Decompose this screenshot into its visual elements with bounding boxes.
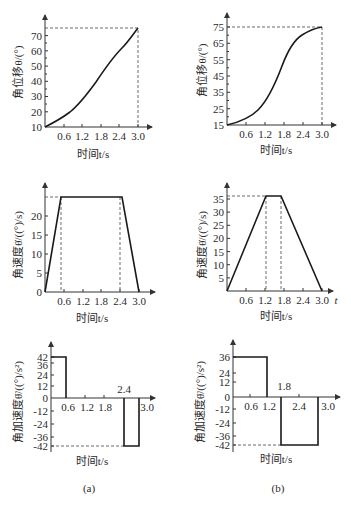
- x-tick-label: 3.0: [140, 401, 154, 413]
- y-axis-title: 角速度θ̇/((°)/s): [195, 211, 209, 279]
- x-tick-label: 1.2: [80, 401, 94, 413]
- x-tick-label: 2.4: [296, 294, 310, 306]
- x-axis-title: 时间t/s: [260, 144, 292, 156]
- y-tick-label: 40: [31, 75, 43, 87]
- y-tick-label: 60: [31, 45, 43, 57]
- displacement-curve: [45, 28, 138, 127]
- x-tick-label: 3.0: [315, 128, 329, 140]
- y-tick-label: 10: [31, 121, 43, 133]
- x-tick-label: 0.6: [57, 130, 71, 142]
- y-tick-label: 15: [213, 119, 225, 131]
- x-tick-label: 2.4: [296, 128, 310, 140]
- x-tick-label: 2.4: [117, 383, 131, 395]
- y-axis-title: 角加速度θ̈/((°)/s²): [11, 361, 25, 443]
- y-tick-label: 0: [225, 391, 231, 403]
- y-tick-label: 35: [213, 193, 225, 205]
- y-tick-label: 25: [213, 219, 225, 231]
- y-tick-label: 50: [31, 60, 43, 72]
- y-tick-label: -24: [33, 418, 48, 430]
- x-axis-title: 时间t/s: [76, 455, 108, 467]
- x-tick-label-1-8: 1.8: [277, 380, 291, 392]
- x-tick-label: 0.6: [244, 400, 258, 412]
- x-axis-title: 时间t/s: [260, 310, 292, 322]
- x-tick-label: 1.8: [277, 294, 291, 306]
- y-tick-label: 20: [213, 232, 225, 244]
- chart-b-displacement: 15 25 35 45 55 65 75 0.6 1.2 1.8 2.4 3.0…: [195, 13, 336, 156]
- x-tick-label: 3.0: [131, 130, 145, 142]
- y-axis-title: 角位移θ/(°): [195, 43, 209, 96]
- y-tick-label: -42: [33, 440, 48, 452]
- x-tick-label: 1.2: [75, 130, 89, 142]
- velocity-trapezoid: [45, 197, 139, 292]
- y-tick-label: 30: [31, 90, 43, 102]
- y-tick-label: 20: [31, 210, 43, 222]
- y-tick-label: 5: [219, 272, 225, 284]
- y-tick-label: 55: [213, 54, 225, 66]
- y-tick-label: 15: [213, 246, 225, 258]
- y-tick-label: 45: [213, 70, 225, 82]
- chart-a-displacement: 10 20 30 40 50 60 70 0.6 1.2 1.8 2.4 3.0…: [11, 15, 152, 160]
- acceleration-positive-pulse: [233, 357, 267, 397]
- y-tick-label: 75: [213, 21, 225, 33]
- y-tick-label: 5: [37, 267, 43, 279]
- y-tick-label: 12: [219, 376, 230, 388]
- y-tick-label: 0: [37, 286, 43, 298]
- x-tick-label: 2.4: [292, 400, 306, 412]
- displacement-curve: [227, 27, 322, 125]
- y-tick-label: 20: [31, 106, 43, 118]
- velocity-trapezoid: [227, 196, 322, 291]
- y-axis-title: 角速度θ̇/((°)/s): [11, 211, 25, 279]
- x-tick-label: 1.8: [94, 295, 108, 307]
- y-tick-label: 35: [213, 86, 225, 98]
- x-tick-label: 0.6: [57, 295, 71, 307]
- x-axis-title: 时间t/s: [260, 453, 292, 465]
- x-tick-label: 3.0: [321, 400, 335, 412]
- x-tick-label: 1.8: [94, 130, 108, 142]
- acceleration-negative-pulse: [124, 398, 139, 446]
- guide-dashed: [45, 28, 138, 127]
- y-tick-label: 12: [37, 380, 48, 392]
- x-tick-label: 1.2: [76, 295, 90, 307]
- chart-b-acceleration: 36 24 12 0 -12 -24 -36 -42 0.6 1.2 2.4 3…: [193, 340, 340, 495]
- x-axis-title: 时间t/s: [77, 148, 109, 160]
- y-tick-label: 30: [213, 206, 225, 218]
- y-tick-label: -12: [33, 405, 48, 417]
- x-tick-label: 1.8: [277, 128, 291, 140]
- chart-b-velocity: 5 10 15 20 25 30 35 0.6 1.2 1.8 2.4 3.0 …: [195, 183, 338, 322]
- x-tick-label: 1.2: [258, 128, 272, 140]
- x-tick-label: 0.6: [61, 401, 75, 413]
- y-tick-label: -12: [215, 403, 230, 415]
- y-axis-title: 角位移θ/(°): [11, 45, 25, 98]
- y-tick-label: -24: [215, 417, 230, 429]
- chart-a-acceleration: 42 36 24 12 0 -12 -24 -36 -42 0.6 1.2 1.…: [11, 342, 155, 495]
- panel-label-a: (a): [83, 482, 96, 495]
- x-tick-label: 2.4: [112, 130, 126, 142]
- y-tick-label: 70: [31, 30, 43, 42]
- y-tick-label: 10: [213, 259, 225, 271]
- x-tick-label: 0.6: [239, 128, 253, 140]
- chart-a-velocity: 0 5 10 15 20 0.6 1.2 1.8 2.4 3.0 时间t/s 角…: [11, 183, 155, 324]
- y-tick-label: 25: [213, 103, 225, 115]
- x-tick-label: 2.4: [113, 295, 127, 307]
- y-tick-label: 0: [43, 392, 49, 404]
- y-tick-label: 65: [213, 37, 225, 49]
- x-axis-end-label: t: [334, 294, 338, 306]
- x-tick-label: 3.0: [132, 295, 146, 307]
- x-tick-label: 0.6: [239, 294, 253, 306]
- x-axis-title: 时间t/s: [76, 312, 108, 324]
- y-tick-label: -42: [215, 439, 230, 451]
- y-tick-label: 36: [219, 351, 231, 363]
- x-tick-label: 1.2: [258, 294, 272, 306]
- x-tick-label: 3.0: [315, 294, 329, 306]
- y-axis-title: 角加速度θ̈/((°)/s²): [193, 361, 207, 443]
- panel-label-b: (b): [272, 482, 285, 495]
- y-tick-label: 10: [31, 248, 43, 260]
- x-tick-label: 1.8: [98, 401, 112, 413]
- y-tick-label: 15: [31, 229, 43, 241]
- guide-dashed: [227, 27, 322, 125]
- x-tick-label: 1.2: [262, 400, 276, 412]
- figure-canvas: 10 20 30 40 50 60 70 0.6 1.2 1.8 2.4 3.0…: [0, 0, 351, 505]
